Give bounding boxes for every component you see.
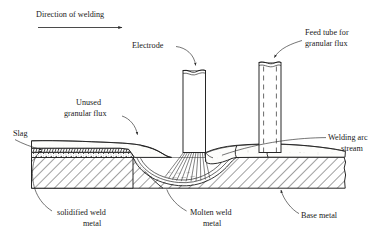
electrode-label: Electrode <box>132 41 164 50</box>
solidified-weld-label-line1: solidified weld <box>57 208 106 217</box>
welding-diagram: Direction of welding Electrode Feed tube… <box>0 0 392 245</box>
flux-feed-tube <box>259 62 281 153</box>
molten-weld-label-line1: Molten weld <box>190 208 232 217</box>
welding-diagram-canvas: Direction of welding Electrode Feed tube… <box>0 0 392 245</box>
slag-layer <box>32 148 135 157</box>
feed-tube-label-line2: granular flux <box>305 39 348 48</box>
base-metal-label: Base metal <box>301 211 338 220</box>
unused-flux-label-line1: Unused <box>76 98 101 107</box>
direction-of-welding-label: Direction of welding <box>36 10 104 19</box>
molten-weld-label-line2: metal <box>203 219 222 228</box>
unused-flux-label-line2: granular flux <box>64 109 107 118</box>
welding-arc-label-line2: stream <box>341 144 363 153</box>
slag-label: Slag <box>13 129 28 138</box>
solidified-weld-label-line2: metal <box>83 219 102 228</box>
welding-arc-label-line1: Welding arc <box>328 133 368 142</box>
electrode-rod <box>183 70 206 153</box>
feed-tube-label-line1: Feed tube for <box>305 28 349 37</box>
